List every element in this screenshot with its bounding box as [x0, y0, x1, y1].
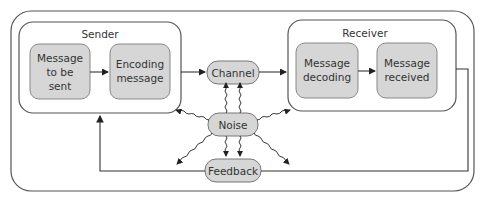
svg-text:to be: to be [46, 66, 73, 78]
sender-title: Sender [81, 28, 119, 40]
receiver-title: Receiver [342, 27, 388, 39]
svg-text:Message: Message [37, 52, 83, 64]
feedback-to-sender-line [100, 116, 205, 171]
svg-text:Message: Message [304, 57, 350, 69]
svg-text:decoding: decoding [303, 71, 351, 83]
svg-text:Noise: Noise [218, 119, 247, 131]
svg-text:received: received [384, 71, 429, 83]
svg-text:sent: sent [49, 80, 72, 92]
svg-text:Encoding: Encoding [116, 58, 164, 70]
svg-text:Channel: Channel [211, 67, 254, 79]
communication-diagram: Sender Message to be sent Encoding messa… [0, 0, 487, 201]
svg-text:message: message [116, 72, 163, 84]
svg-text:Feedback: Feedback [208, 165, 259, 177]
svg-text:Message: Message [384, 57, 430, 69]
